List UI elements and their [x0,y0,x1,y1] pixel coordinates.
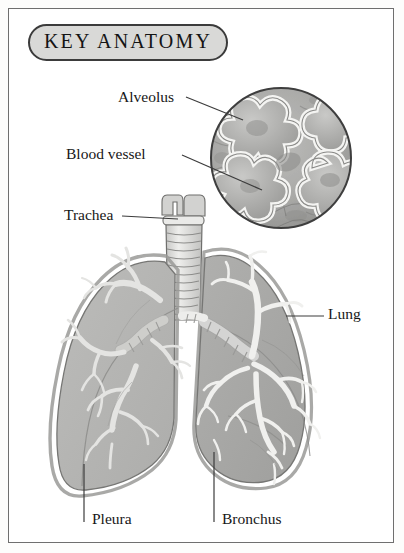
anatomy-illustration [0,0,404,553]
right-lung [182,249,320,489]
left-lung [50,248,190,496]
illustration-page: KEY ANATOMY Alveolus Blood vessel Trache… [0,0,404,553]
label-blood-vessel: Blood vessel [66,146,146,162]
key-anatomy-badge: KEY ANATOMY [28,24,228,61]
key-anatomy-title: KEY ANATOMY [44,30,212,55]
label-bronchus: Bronchus [222,511,281,527]
label-trachea: Trachea [64,207,113,223]
label-pleura: Pleura [92,511,132,527]
alveolus-inset [211,88,370,230]
label-lung: Lung [328,306,361,322]
label-alveolus: Alveolus [118,89,174,105]
